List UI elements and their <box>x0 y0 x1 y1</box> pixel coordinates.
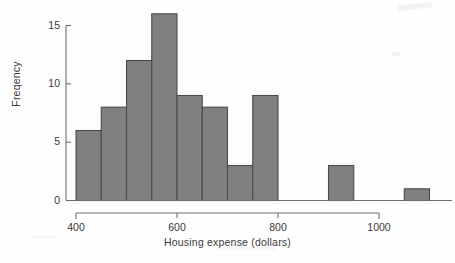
x-axis-tick-label: 400 <box>53 221 99 233</box>
histogram-bar <box>202 107 227 200</box>
histogram-bar <box>404 189 429 201</box>
histogram-bar <box>329 166 354 201</box>
histogram-bar <box>253 96 278 201</box>
x-axis-tick-label: 600 <box>154 221 200 233</box>
histogram-bar <box>101 107 126 200</box>
histogram-figure: 051015 4006008001000 Freqency Housing ex… <box>0 0 455 263</box>
y-axis-tick-label: 5 <box>34 135 60 147</box>
x-axis-tick-label: 800 <box>255 221 301 233</box>
histogram-bar <box>76 131 101 201</box>
bars-layer <box>76 14 430 201</box>
y-axis-tick-label: 0 <box>34 194 60 206</box>
y-axis-tick-label: 15 <box>34 19 60 31</box>
histogram-bar <box>152 14 177 201</box>
histogram-bar <box>228 166 253 201</box>
y-axis-tick-label: 10 <box>34 77 60 89</box>
x-axis-title: Housing expense (dollars) <box>0 236 455 248</box>
x-axis-tick-label: 1000 <box>356 221 402 233</box>
y-axis-title: Freqency <box>10 24 22 144</box>
histogram-bar <box>127 61 152 201</box>
histogram-bar <box>177 96 202 201</box>
